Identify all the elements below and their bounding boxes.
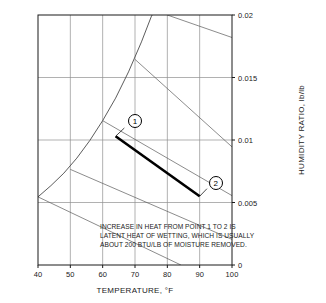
y-tick-label-0: 0 [238,261,242,270]
x-tick-label-80: 80 [163,270,172,279]
chart-plot-area [0,0,326,303]
y-tick-label-0.005: 0.005 [238,199,257,208]
y-tick-label-0.015: 0.015 [238,74,257,83]
y-tick-label-0.01: 0.01 [238,136,253,145]
state-point-marker-2: 2 [209,176,223,190]
x-tick-label-50: 50 [66,270,75,279]
psychrometric-chart: 405060708090100 00.0050.010.0150.02 TEMP… [0,0,326,303]
x-axis-title: TEMPERATURE, °F [38,286,232,295]
y-tick-label-0.02: 0.02 [238,11,253,20]
annotation-line-1: INCREASE IN HEAT FROM POINT 1 TO 2 IS [100,222,254,231]
y-axis-title: HUMIDITY RATIO, lb/lb [297,70,306,190]
annotation-line-3: ABOUT 200 BTU/LB OF MOISTURE REMOVED. [100,240,254,249]
x-tick-label-90: 90 [195,270,204,279]
x-tick-label-40: 40 [34,270,43,279]
x-tick-label-100: 100 [226,270,239,279]
x-tick-label-70: 70 [131,270,140,279]
x-tick-label-60: 60 [98,270,107,279]
chart-annotation-text: INCREASE IN HEAT FROM POINT 1 TO 2 ISLAT… [100,222,254,250]
annotation-line-2: LATENT HEAT OF WETTING, WHICH IS USUALLY [100,231,254,240]
